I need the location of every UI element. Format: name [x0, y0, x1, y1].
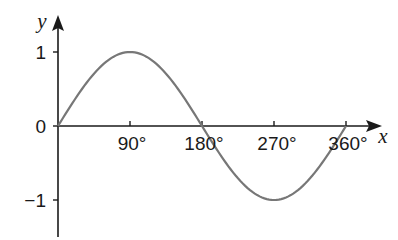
x-axis-label: x: [377, 124, 388, 148]
y-tick-label-1: 1: [35, 42, 46, 63]
y-tick-label-neg1: −1: [24, 190, 46, 211]
sine-chart: 1 0 −1 90° 180° 270° 360° y x: [0, 0, 398, 240]
x-tick-label-360: 360°: [328, 133, 367, 154]
x-tick-label-90: 90°: [118, 133, 147, 154]
y-axis-label: y: [35, 9, 47, 33]
x-tick-label-270: 270°: [257, 133, 296, 154]
y-tick-label-0: 0: [35, 116, 46, 137]
x-tick-label-180: 180°: [184, 133, 223, 154]
